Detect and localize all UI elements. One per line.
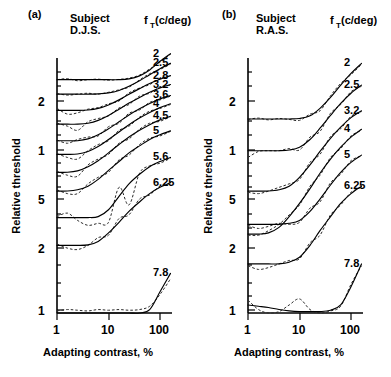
panel-b-xtick-1: 10 [292, 323, 306, 337]
curve-label-3.2: 3.2 [344, 104, 359, 116]
panel-b-x-ticks [248, 313, 351, 320]
curve-label-2.5: 2.5 [153, 56, 168, 68]
panel-a-ytick-1: 1 [38, 144, 45, 158]
panel-a-xtick-1: 10 [101, 323, 115, 337]
panel-a-ytick-3: 2 [38, 242, 45, 256]
panel-a-xtick-2: 100 [149, 323, 169, 337]
panel-a-xtick-0: 1 [53, 323, 60, 337]
curve-label-7.8: 7.8 [344, 257, 359, 269]
curve-solid-7.8 [248, 264, 362, 312]
curve-label-4: 4 [153, 97, 160, 109]
panel-b-ytick-0: 2 [229, 95, 236, 109]
panel-b-legend-f: f [330, 14, 334, 26]
panel-b-legend-title: f T (c/deg) [330, 14, 377, 30]
panel-a-legend-unit: (c/deg) [155, 14, 191, 26]
curve-label-6.25: 6.25 [153, 176, 174, 188]
curve-label-2: 2 [344, 56, 350, 68]
curve-label-7.8: 7.8 [153, 266, 168, 278]
panel-b-yaxis-title: Relative threshold [202, 138, 214, 233]
panel-b: (b) Subject R.A.S. f T (c/deg) [202, 8, 377, 358]
curve-solid-6.25 [248, 186, 362, 264]
two-panel-threshold-figure: (a) Subject D.J.S. f T (c/deg) [0, 0, 391, 377]
curve-label-5: 5 [344, 148, 350, 160]
panel-a-xaxis-title: Adapting contrast, % [43, 346, 153, 358]
panel-b-ytick-1: 1 [229, 144, 236, 158]
panel-a-ytick-2: 5 [38, 193, 45, 207]
panel-b-ytick-3: 2 [229, 242, 236, 256]
panel-b-subject-word: Subject [256, 12, 296, 24]
curve-label-4: 4 [344, 122, 351, 134]
panel-b-ytick-4: 1 [229, 304, 236, 318]
figure-container: (a) Subject D.J.S. f T (c/deg) [0, 0, 391, 377]
curve-dashed-7.8 [57, 279, 171, 311]
panel-a: (a) Subject D.J.S. f T (c/deg) [10, 8, 191, 358]
panel-a-x-ticks [57, 313, 160, 320]
panel-a-subject-name: D.J.S. [70, 24, 101, 36]
panel-b-xaxis-title: Adapting contrast, % [234, 346, 344, 358]
panel-b-letter: (b) [222, 8, 236, 20]
panel-b-legend-unit: (c/deg) [341, 14, 377, 26]
panel-a-ytick-0: 2 [38, 95, 45, 109]
curve-label-5.6: 5.6 [153, 150, 168, 162]
curve-label-2.5: 2.5 [344, 78, 359, 90]
panel-a-letter: (a) [28, 8, 42, 20]
panel-a-legend-f: f [144, 14, 148, 26]
curve-solid-7.8 [57, 273, 171, 313]
curve-dashed-7.8 [248, 266, 362, 313]
curve-label-5: 5 [153, 124, 159, 136]
panel-a-legend-title: f T (c/deg) [144, 14, 191, 30]
curve-label-4.5: 4.5 [153, 109, 168, 121]
curve-dashed-6.25 [57, 184, 171, 250]
panel-b-xtick-0: 1 [244, 323, 251, 337]
panel-a-curve-labels: 22.52.83.23.644.555.66.257.8 [153, 47, 174, 279]
panel-b-ytick-2: 5 [229, 193, 236, 207]
panel-a-yaxis-title: Relative threshold [10, 138, 22, 233]
curve-label-6.25: 6.25 [344, 179, 365, 191]
panel-a-subject-word: Subject [70, 12, 110, 24]
panel-b-curve-labels: 22.53.2456.257.8 [344, 56, 365, 269]
panel-a-ytick-4: 1 [38, 304, 45, 318]
panel-b-subject-name: R.A.S. [256, 24, 288, 36]
panel-b-xtick-2: 100 [340, 323, 360, 337]
curve-dashed-5 [248, 156, 362, 229]
